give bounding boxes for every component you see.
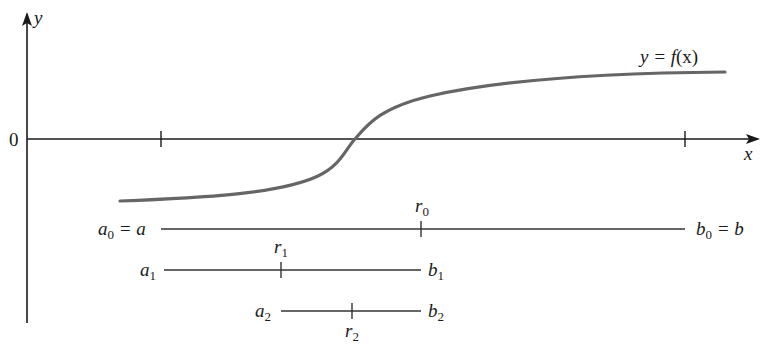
function-curve: y = f(x) — [120, 46, 725, 201]
interval-2: a2 b2 r2 — [255, 300, 444, 344]
x-axis: 0 x — [9, 129, 758, 164]
interval-1: a1 b1 r1 — [140, 236, 444, 283]
y-axis-label: y — [32, 7, 43, 28]
y-axis: y — [27, 7, 43, 323]
bisection-diagram: y 0 x y = f(x) a0 = a b0 = b r0 a1 b1 r1… — [0, 0, 774, 354]
a2-label: a2 — [255, 300, 271, 324]
x-axis-label: x — [743, 143, 753, 164]
r1-label: r1 — [274, 236, 288, 260]
r0-label: r0 — [415, 195, 429, 219]
origin-label: 0 — [9, 129, 19, 150]
a1-label: a1 — [140, 259, 156, 283]
curve-label: y = f(x) — [638, 46, 698, 68]
b1-label: b1 — [428, 259, 444, 283]
b2-label: b2 — [428, 300, 444, 324]
r2-label: r2 — [345, 320, 359, 344]
interval-0: a0 = a b0 = b r0 — [98, 195, 744, 242]
a0-label: a0 = a — [98, 218, 146, 242]
b0-label: b0 = b — [696, 218, 744, 242]
